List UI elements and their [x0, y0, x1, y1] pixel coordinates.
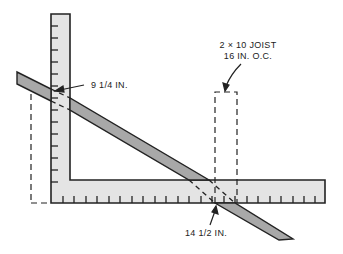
- joist-arrow: [223, 64, 241, 91]
- run-label: 14 1/2 IN.: [185, 228, 227, 238]
- joist-label-line2: 16 IN. O.C.: [206, 51, 290, 61]
- framing-square-diagram: [0, 0, 343, 254]
- run-arrow: [210, 206, 218, 225]
- plate-outline: [31, 94, 51, 203]
- rise-label: 9 1/4 IN.: [91, 80, 128, 90]
- joist-label-line1: 2 × 10 JOIST: [206, 40, 290, 50]
